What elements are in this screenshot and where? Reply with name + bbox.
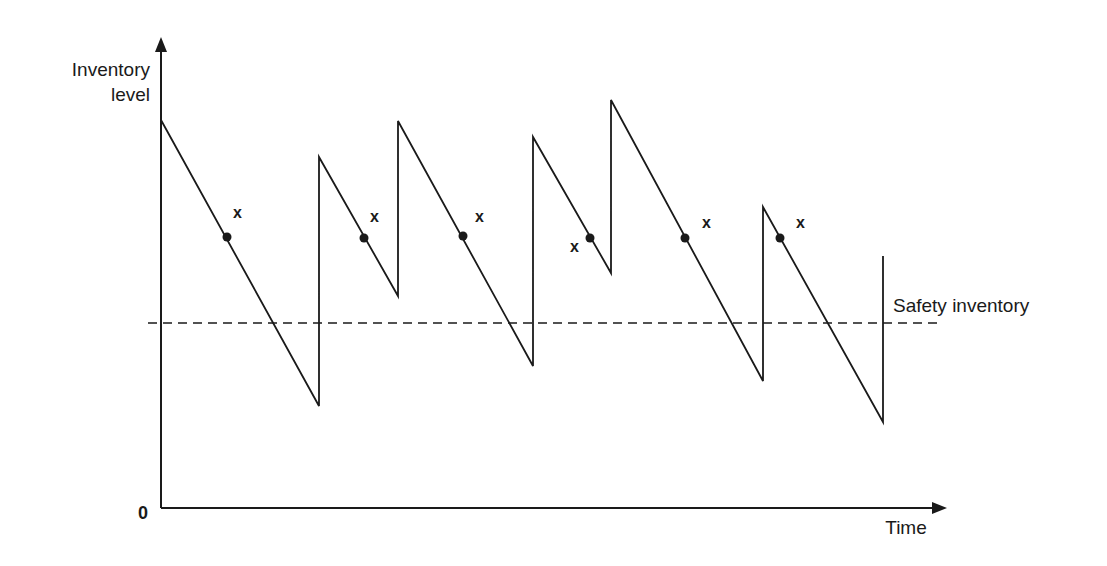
reorder-point (776, 234, 785, 243)
reorder-point (586, 234, 595, 243)
reorder-points (223, 232, 785, 243)
inventory-diagram: xxxxxx Inventory level 0 Time Safety inv… (0, 0, 1107, 566)
x-axis-arrow-icon (932, 502, 947, 514)
x-axis-label: Time (885, 517, 927, 538)
reorder-marker-label: x (475, 208, 484, 225)
y-axis-label-line1: Inventory (72, 59, 151, 80)
origin-label: 0 (138, 503, 148, 523)
reorder-point (681, 234, 690, 243)
inventory-sawtooth-line (161, 100, 883, 422)
reorder-point (360, 234, 369, 243)
reorder-marker-label: x (233, 204, 242, 221)
reorder-point (223, 233, 232, 242)
reorder-point (459, 232, 468, 241)
y-axis-label-line2: level (111, 84, 150, 105)
safety-inventory-label: Safety inventory (893, 295, 1030, 316)
y-axis-arrow-icon (155, 37, 167, 52)
reorder-marker-label: x (796, 214, 805, 231)
reorder-marker-label: x (702, 214, 711, 231)
reorder-marker-label: x (370, 208, 379, 225)
reorder-marker-label: x (570, 238, 579, 255)
